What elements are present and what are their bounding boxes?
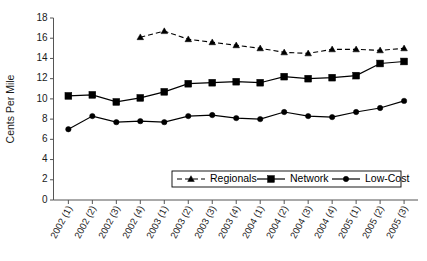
series-network xyxy=(65,58,408,105)
data-point-triangle xyxy=(161,28,168,34)
chart-container: 024681012141618 2002 (1)2002 (2)2002 (3)… xyxy=(0,0,427,261)
x-tick-label: 2004 (1) xyxy=(240,204,266,240)
x-axis: 2002 (1)2002 (2)2002 (3)2002 (4)2003 (1)… xyxy=(48,200,418,240)
data-point-circle xyxy=(258,116,263,121)
line-chart: 024681012141618 2002 (1)2002 (2)2002 (3)… xyxy=(0,0,427,261)
data-series-group xyxy=(65,28,408,132)
data-point-circle xyxy=(162,119,167,124)
data-point-circle xyxy=(138,118,143,123)
data-point-square xyxy=(281,73,288,80)
y-tick-label: 0 xyxy=(42,194,48,205)
y-tick-label: 6 xyxy=(42,133,48,144)
x-tick-label: 2004 (2) xyxy=(264,204,290,240)
y-axis-title-text: Cents Per Mile xyxy=(4,74,16,143)
x-tick-label: 2004 (3) xyxy=(288,204,314,240)
data-point-square xyxy=(185,80,192,87)
data-point-square xyxy=(377,60,384,67)
data-point-square xyxy=(329,74,336,81)
data-point-circle xyxy=(329,114,334,119)
chart-legend: RegionalsNetworkLow-Cost xyxy=(172,171,409,187)
data-point-triangle xyxy=(185,36,192,42)
y-tick-label: 12 xyxy=(36,72,48,83)
data-point-square xyxy=(209,79,216,86)
x-tick-label: 2003 (3) xyxy=(192,204,218,240)
x-tick-label: 2005 (1) xyxy=(336,204,362,240)
series-regionals xyxy=(137,28,407,56)
y-tick-label: 16 xyxy=(36,32,48,43)
data-point-circle xyxy=(343,176,348,181)
data-point-square xyxy=(268,176,275,183)
data-point-circle xyxy=(305,113,310,118)
x-tick-label: 2004 (4) xyxy=(312,204,338,240)
data-point-triangle xyxy=(401,45,408,51)
x-tick-label: 2005 (2) xyxy=(360,204,386,240)
x-tick-label: 2002 (3) xyxy=(96,204,122,240)
data-point-square xyxy=(233,78,240,85)
data-point-triangle xyxy=(329,46,336,52)
x-tick-label: 2003 (2) xyxy=(168,204,194,240)
y-tick-label: 2 xyxy=(42,173,48,184)
data-point-circle xyxy=(66,127,71,132)
data-point-square xyxy=(113,99,120,106)
data-point-circle xyxy=(377,105,382,110)
data-point-circle xyxy=(90,113,95,118)
x-tick-label: 2005 (3) xyxy=(384,204,410,240)
data-point-square xyxy=(401,58,408,65)
x-tick-label: 2003 (4) xyxy=(216,204,242,240)
y-axis: 024681012141618 xyxy=(36,12,53,205)
data-point-circle xyxy=(114,119,119,124)
x-tick-label: 2002 (2) xyxy=(72,204,98,240)
y-tick-label: 18 xyxy=(36,12,48,23)
legend-label-text: Network xyxy=(290,172,329,184)
data-point-circle xyxy=(353,109,358,114)
data-point-square xyxy=(257,79,264,86)
data-point-square xyxy=(89,91,96,98)
data-point-circle xyxy=(210,112,215,117)
data-point-square xyxy=(161,88,168,95)
data-point-circle xyxy=(281,109,286,114)
x-tick-label: 2003 (1) xyxy=(144,204,170,240)
data-point-triangle xyxy=(209,39,216,45)
data-point-circle xyxy=(186,113,191,118)
legend-label-text: Low-Cost xyxy=(365,172,409,184)
data-point-square xyxy=(305,75,312,82)
y-axis-title: Cents Per Mile xyxy=(4,74,16,143)
y-tick-label: 10 xyxy=(36,93,48,104)
y-tick-label: 4 xyxy=(42,153,48,164)
data-point-square xyxy=(137,94,144,101)
legend-label-text: Regionals xyxy=(210,172,257,184)
x-tick-label: 2002 (4) xyxy=(120,204,146,240)
data-point-circle xyxy=(234,115,239,120)
data-point-circle xyxy=(401,98,406,103)
data-point-square xyxy=(353,72,360,79)
data-point-square xyxy=(65,92,72,99)
y-tick-label: 8 xyxy=(42,113,48,124)
series-line xyxy=(140,31,404,53)
y-tick-label: 14 xyxy=(36,52,48,63)
x-tick-label: 2002 (1) xyxy=(48,204,74,240)
